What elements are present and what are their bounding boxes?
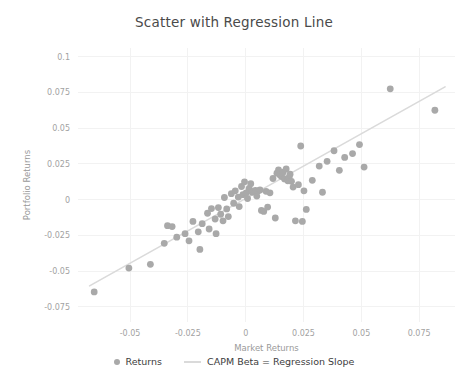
chart-figure: Scatter with Regression Line 0.10.0750.0… <box>0 0 468 391</box>
x-axis-title: Market Returns <box>234 343 299 353</box>
data-points-group <box>91 85 438 295</box>
legend-label-returns: Returns <box>126 356 162 367</box>
svg-text:0.025: 0.025 <box>47 160 70 169</box>
svg-text:0.025: 0.025 <box>292 329 315 338</box>
y-axis-ticks: 0.10.0750.050.0250-0.025-0.05-0.075 <box>44 53 70 312</box>
svg-text:0.075: 0.075 <box>408 329 431 338</box>
legend-line-marker <box>184 361 201 363</box>
svg-text:0.075: 0.075 <box>47 88 70 97</box>
scatter-plot-canvas: 0.10.0750.050.0250-0.025-0.05-0.075 -0.0… <box>0 0 468 391</box>
y-axis-title: Portfolio Returns <box>22 149 32 220</box>
svg-text:-0.025: -0.025 <box>44 231 70 240</box>
legend-label-regression: CAPM Beta = Regression Slope <box>207 356 354 367</box>
legend-item-returns[interactable]: Returns <box>114 356 162 367</box>
svg-text:-0.05: -0.05 <box>49 267 70 276</box>
svg-text:0.05: 0.05 <box>352 329 370 338</box>
gridlines-group <box>78 48 455 322</box>
svg-text:0: 0 <box>243 329 248 338</box>
chart-legend: Returns CAPM Beta = Regression Slope <box>0 356 468 367</box>
x-axis-ticks: -0.05-0.02500.0250.050.075 <box>120 329 431 338</box>
svg-text:-0.075: -0.075 <box>44 303 70 312</box>
svg-text:0.1: 0.1 <box>57 53 70 62</box>
legend-dot-marker <box>114 359 120 365</box>
legend-item-regression[interactable]: CAPM Beta = Regression Slope <box>184 356 354 367</box>
svg-text:0: 0 <box>65 196 70 205</box>
svg-text:0.05: 0.05 <box>52 124 70 133</box>
svg-text:-0.05: -0.05 <box>120 329 141 338</box>
svg-text:-0.025: -0.025 <box>175 329 201 338</box>
regression-line-group <box>90 87 445 286</box>
